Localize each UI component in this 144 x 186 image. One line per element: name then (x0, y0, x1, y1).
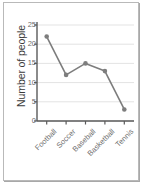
chart-figure-frame: Number of people 0510152025 FootballSocc… (3, 2, 139, 181)
chart-plot-area: Number of people 0510152025 FootballSocc… (4, 3, 140, 182)
x-axis-tick-labels: FootballSoccerBaseballBasketballTennis (4, 3, 140, 182)
